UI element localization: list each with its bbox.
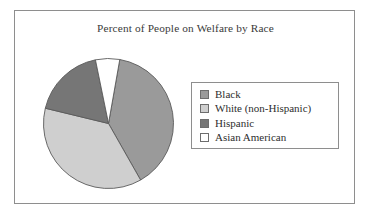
pie-svg [43, 58, 175, 190]
legend-label-hispanic: Hispanic [215, 118, 254, 129]
legend-swatch-hispanic [200, 119, 209, 128]
legend: Black White (non-Hispanic) Hispanic Asia… [191, 82, 339, 149]
legend-item-black: Black [200, 87, 338, 102]
legend-swatch-white-non-hispanic [200, 104, 209, 113]
legend-label-white-non-hispanic: White (non-Hispanic) [215, 103, 311, 114]
legend-item-hispanic: Hispanic [200, 116, 338, 131]
pie-chart [43, 58, 175, 190]
legend-swatch-asian-american [200, 133, 209, 142]
legend-swatch-black [200, 90, 209, 99]
pie-slice-group [43, 59, 173, 189]
legend-item-asian-american: Asian American [200, 131, 338, 146]
figure-frame: Percent of People on Welfare by Race Bla… [14, 10, 355, 204]
legend-label-black: Black [215, 89, 241, 100]
legend-label-asian-american: Asian American [215, 132, 286, 143]
legend-item-white-non-hispanic: White (non-Hispanic) [200, 102, 338, 117]
chart-title: Percent of People on Welfare by Race [15, 22, 356, 34]
